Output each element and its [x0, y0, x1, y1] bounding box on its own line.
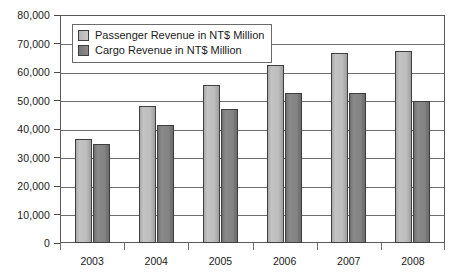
x-tick-mark	[317, 243, 318, 250]
x-axis: 200320042005200620072008	[60, 243, 445, 278]
legend: Passenger Revenue in NT$ MillionCargo Re…	[72, 24, 272, 63]
bar-2004-series-0	[139, 106, 156, 243]
y-tick-label: 30,000	[17, 152, 50, 164]
bar-2006-series-0	[267, 65, 284, 243]
legend-item-0: Passenger Revenue in NT$ Million	[78, 28, 264, 43]
bar-2006-series-1	[285, 93, 302, 243]
y-tick-label: 60,000	[17, 66, 50, 78]
y-tick-label: 10,000	[17, 209, 50, 221]
legend-label: Passenger Revenue in NT$ Million	[95, 29, 264, 42]
bar-2008-series-0	[395, 51, 412, 243]
legend-item-1: Cargo Revenue in NT$ Million	[78, 43, 264, 58]
bar-2005-series-1	[221, 109, 238, 243]
x-tick-mark	[253, 243, 254, 250]
x-tick-mark	[444, 243, 445, 250]
x-tick-label-2005: 2005	[209, 255, 232, 267]
x-tick-mark	[381, 243, 382, 250]
x-tick-mark	[188, 243, 189, 250]
x-tick-mark	[60, 243, 61, 250]
bar-2007-series-1	[349, 93, 366, 243]
legend-label: Cargo Revenue in NT$ Million	[95, 44, 242, 57]
legend-swatch-icon	[78, 30, 89, 41]
y-tick-label: 80,000	[17, 9, 50, 21]
x-tick-mark	[124, 243, 125, 250]
bar-2005-series-0	[203, 85, 220, 243]
x-tick-label-2007: 2007	[337, 255, 360, 267]
bar-2004-series-1	[157, 125, 174, 243]
y-tick-label: 70,000	[17, 38, 50, 50]
y-tick-label: 50,000	[17, 95, 50, 107]
y-tick-label: 20,000	[17, 180, 50, 192]
bar-2008-series-1	[413, 101, 430, 243]
bar-2003-series-0	[75, 139, 92, 243]
bar-chart: 010,00020,00030,00040,00050,00060,00070,…	[0, 0, 458, 278]
legend-swatch-icon	[78, 45, 89, 56]
x-tick-label-2006: 2006	[273, 255, 296, 267]
x-tick-label-2004: 2004	[145, 255, 168, 267]
x-tick-label-2003: 2003	[80, 255, 103, 267]
bar-2007-series-0	[331, 53, 348, 243]
bar-2003-series-1	[93, 144, 110, 243]
y-tick-label: 40,000	[17, 123, 50, 135]
x-tick-label-2008: 2008	[401, 255, 424, 267]
y-tick-label: 0	[44, 237, 50, 249]
y-axis: 010,00020,00030,00040,00050,00060,00070,…	[0, 0, 60, 278]
